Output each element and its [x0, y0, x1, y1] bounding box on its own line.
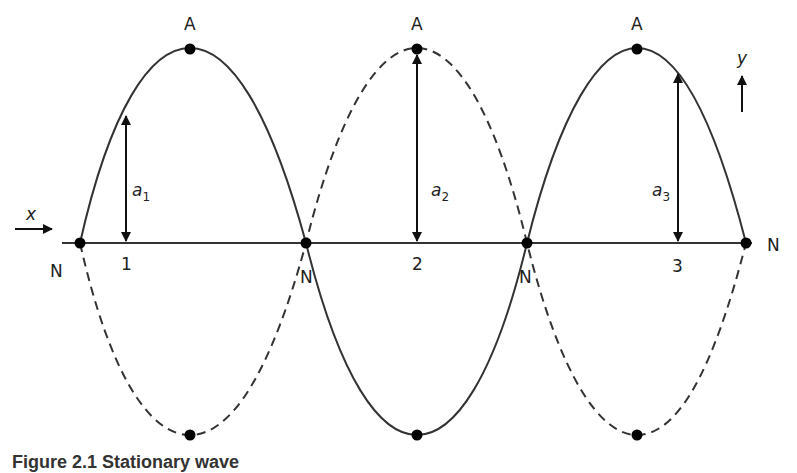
y-axis-label: y: [736, 48, 748, 68]
node-dot: [75, 238, 86, 249]
point-label: 1: [121, 254, 132, 274]
amplitude-label-a3: a3: [652, 180, 670, 204]
antinode-dot: [632, 44, 643, 55]
node-label: N: [767, 235, 780, 255]
antinode-dot: [185, 430, 196, 441]
antinode-label: A: [411, 14, 423, 34]
x-axis-label: x: [25, 204, 37, 224]
node-label: N: [50, 261, 63, 281]
amplitude-label-a1: a1: [132, 180, 150, 204]
antinode-dot: [185, 44, 196, 55]
node-dot: [522, 238, 533, 249]
antinode-dot: [632, 430, 643, 441]
amplitude-label-a2: a2: [431, 180, 449, 204]
antinode-dot: [412, 44, 423, 55]
solid-wave-curve: [80, 48, 746, 435]
antinode-label: A: [631, 14, 643, 34]
point-label: 2: [412, 254, 423, 274]
dashed-wave-curve: [80, 48, 746, 435]
figure-caption: Figure 2.1 Stationary wave: [12, 452, 239, 473]
node-label: N: [519, 267, 532, 287]
node-label: N: [300, 267, 313, 287]
node-dot: [741, 238, 752, 249]
point-label: 3: [672, 256, 683, 276]
antinode-label: A: [184, 14, 196, 34]
node-dot: [301, 238, 312, 249]
antinode-dot: [412, 430, 423, 441]
